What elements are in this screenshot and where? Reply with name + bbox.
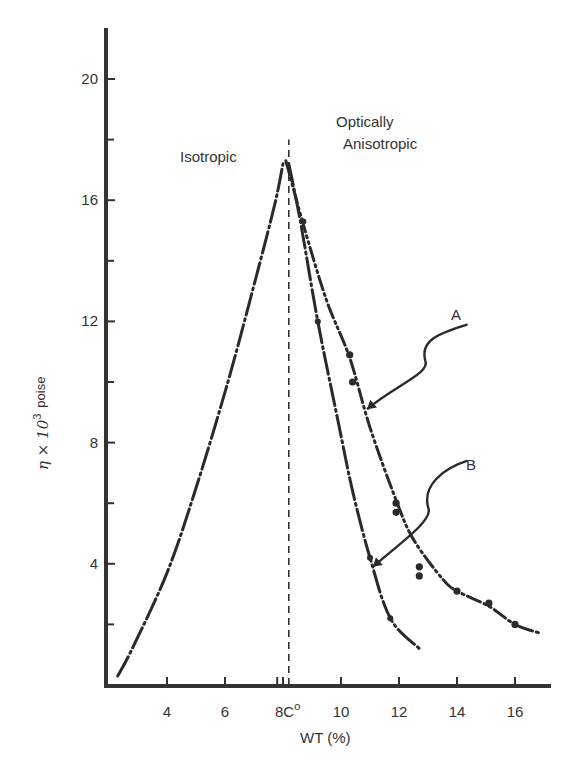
y-tick-label: 20	[81, 70, 98, 87]
marker-a	[349, 378, 356, 385]
x-tick-label: 10	[333, 703, 350, 720]
y-axis-title: η × 103poise	[31, 377, 52, 470]
x-tick-label: 14	[449, 703, 466, 720]
y-tick-label: 16	[81, 191, 98, 208]
x-tick-label: 12	[391, 703, 408, 720]
x-tick-label: 6	[221, 703, 229, 720]
x-ticks: 4610121416	[163, 677, 524, 720]
callout-b-label: B	[466, 456, 476, 473]
axes	[104, 28, 551, 687]
series-isotropic-branch	[118, 164, 283, 676]
optically-label: Optically	[336, 113, 394, 130]
marker-a	[416, 563, 423, 570]
anisotropic-label: Anisotropic	[343, 135, 418, 152]
series-group	[118, 161, 541, 676]
isotropic-label: Isotropic	[180, 148, 237, 165]
marker-a	[346, 351, 353, 358]
callout-a-leader	[367, 324, 467, 409]
y-tick-label: 12	[81, 312, 98, 329]
callouts-group	[367, 324, 467, 566]
x-tick-label: 4	[163, 703, 171, 720]
marker-a	[485, 600, 492, 607]
marker-b	[387, 615, 393, 621]
x-tick-label: 16	[507, 703, 524, 720]
y-tick-label: 4	[90, 555, 98, 572]
x-axis-title: WT (%)	[300, 729, 351, 746]
marker-a	[393, 500, 400, 507]
callout-a-label: A	[451, 306, 461, 323]
marker-b	[315, 318, 321, 324]
marker-a	[393, 509, 400, 516]
y-tick-label: 8	[90, 434, 98, 451]
markers-group	[300, 218, 518, 628]
series-a	[286, 161, 541, 634]
y-ticks: 48121620	[81, 70, 115, 624]
marker-a	[453, 587, 460, 594]
marker-b	[300, 218, 306, 224]
marker-a	[416, 572, 423, 579]
viscosity-chart: 48121620 4610121416 Isotropic Optically …	[0, 0, 578, 773]
x-critical-tick-label: 8Co	[275, 700, 300, 720]
marker-b	[367, 555, 373, 561]
marker-a	[511, 621, 518, 628]
